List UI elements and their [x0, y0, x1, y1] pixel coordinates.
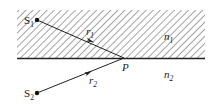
source-s1-dot [35, 18, 39, 22]
label-n2: n2 [164, 68, 174, 83]
label-s2: S2 [24, 87, 34, 102]
medium-n1-region [17, 10, 205, 58]
refraction-diagram: S1 S2 r1 r2 P n1 n2 [0, 0, 219, 108]
source-s2-dot [35, 91, 39, 95]
label-r2: r2 [89, 74, 97, 89]
ray-r2 [37, 58, 124, 93]
label-p: P [121, 61, 129, 73]
